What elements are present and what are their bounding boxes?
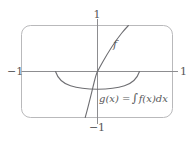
- g-differential: dx: [156, 93, 168, 104]
- x-axis-tick-label-left: −1: [7, 66, 23, 77]
- antiderivative-figure: 1 −1 −1 1 f g(x) =∫f(x)dx: [0, 0, 195, 142]
- g-integrand: f(x): [139, 93, 156, 104]
- y-axis-tick-label-bottom: −1: [89, 122, 105, 133]
- curve-g-equation-label: g(x) =∫f(x)dx: [99, 92, 168, 104]
- g-equation-lhs: g(x) =: [99, 93, 130, 104]
- integral-sign: ∫: [130, 91, 138, 105]
- curve-f-label: f: [113, 39, 117, 50]
- x-axis-tick-label-right: 1: [180, 66, 187, 77]
- y-axis-tick-label-top: 1: [94, 9, 101, 20]
